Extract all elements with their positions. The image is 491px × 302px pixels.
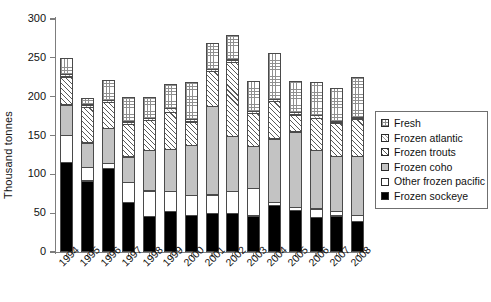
bar-segment-frozen-trouts (206, 71, 219, 107)
bar-2005[interactable] (289, 82, 302, 252)
y-tick-mark (50, 96, 55, 97)
bar-segment-frozen-coho (310, 150, 323, 209)
bar-segment-frozen-sockeye (60, 162, 73, 252)
bar-segment-fresh (351, 77, 364, 118)
bar-2003[interactable] (247, 82, 260, 252)
legend-item-frozen-trouts[interactable]: Frozen trouts (381, 145, 483, 160)
bar-segment-fresh (289, 81, 302, 113)
bar-segment-frozen-trouts (185, 122, 198, 146)
bar-segment-fresh (60, 58, 73, 75)
bar-1997[interactable] (122, 98, 135, 252)
bar-segment-fresh (185, 82, 198, 120)
bar-segment-other-frozen-pacific (164, 191, 177, 211)
bar-segment-other-frozen-pacific (122, 182, 135, 203)
y-tick-label: 150 (12, 129, 46, 141)
y-tick-mark (50, 18, 55, 19)
bar-2002[interactable] (226, 35, 239, 252)
bar-2008[interactable] (351, 77, 364, 252)
y-tick-label: 200 (12, 90, 46, 102)
y-tick-mark (50, 251, 55, 252)
bar-segment-frozen-trouts (310, 118, 323, 151)
bar-segment-fresh (247, 81, 260, 111)
bar-segment-fresh (206, 43, 219, 69)
bar-1994[interactable] (60, 59, 73, 252)
bar-segment-fresh (164, 84, 177, 110)
bar-segment-fresh (102, 80, 115, 101)
bar-1998[interactable] (143, 98, 156, 252)
fresh-swatch (381, 119, 389, 127)
bar-1995[interactable] (81, 99, 94, 252)
bar-segment-frozen-trouts (268, 101, 281, 139)
bar-segment-frozen-coho (330, 156, 343, 212)
bar-segment-frozen-trouts (289, 115, 302, 133)
bar-segment-fresh (226, 35, 239, 61)
bar-segment-frozen-coho (268, 139, 281, 203)
bar-segment-frozen-trouts (143, 120, 156, 151)
bar-segment-other-frozen-pacific (247, 188, 260, 216)
legend: FreshFrozen atlanticFrozen troutsFrozen … (375, 111, 488, 209)
bar-2006[interactable] (310, 83, 323, 252)
bar-segment-other-frozen-pacific (60, 135, 73, 163)
bar-segment-frozen-trouts (247, 113, 260, 147)
bar-segment-frozen-coho (102, 128, 115, 164)
plot-area (56, 19, 368, 252)
y-tick-label: 300 (12, 12, 46, 24)
bar-segment-fresh (268, 53, 281, 100)
bar-2000[interactable] (185, 83, 198, 252)
bar-segment-frozen-trouts (351, 119, 364, 157)
bar-segment-frozen-coho (81, 143, 94, 169)
bar-segment-frozen-coho (143, 150, 156, 191)
bar-segment-frozen-coho (226, 136, 239, 192)
bar-segment-frozen-coho (185, 145, 198, 196)
y-tick-mark (50, 135, 55, 136)
chart-figure: Thousand tonnes 050100150200250300 19941… (0, 0, 491, 302)
bar-segment-frozen-coho (206, 106, 219, 195)
legend-item-label: Frozen atlantic (394, 133, 463, 144)
bar-2001[interactable] (206, 44, 219, 252)
bar-2007[interactable] (330, 89, 343, 252)
frozen-coho-swatch (381, 163, 389, 171)
legend-item-label: Frozen sockeye (394, 191, 468, 202)
bar-segment-frozen-coho (164, 149, 177, 192)
y-tick-label: 250 (12, 51, 46, 63)
y-tick-mark (50, 213, 55, 214)
frozen-atlantic-swatch (381, 134, 389, 142)
legend-item-frozen-coho[interactable]: Frozen coho (381, 160, 483, 175)
bar-segment-frozen-sockeye (81, 181, 94, 252)
bar-segment-other-frozen-pacific (143, 191, 156, 217)
bar-segment-fresh (310, 82, 323, 116)
legend-item-fresh[interactable]: Fresh (381, 116, 483, 131)
y-tick-label: 0 (12, 245, 46, 257)
bar-segment-frozen-coho (247, 146, 260, 189)
bar-1996[interactable] (102, 81, 115, 252)
bar-segment-other-frozen-pacific (81, 167, 94, 181)
bar-segment-other-frozen-pacific (185, 195, 198, 215)
bar-segment-other-frozen-pacific (226, 191, 239, 214)
legend-item-label: Other frozen pacific (394, 176, 485, 187)
legend-item-label: Frozen trouts (394, 147, 456, 158)
frozen-sockeye-swatch (381, 192, 389, 200)
bar-segment-frozen-trouts (330, 123, 343, 156)
bar-segment-frozen-trouts (60, 77, 73, 106)
frozen-trouts-swatch (381, 148, 389, 156)
bar-segment-frozen-sockeye (102, 168, 115, 252)
bar-2004[interactable] (268, 54, 281, 252)
bar-segment-fresh (143, 97, 156, 119)
y-tick-label: 100 (12, 167, 46, 179)
bar-segment-frozen-trouts (81, 107, 94, 144)
bar-segment-frozen-trouts (226, 62, 239, 137)
bar-segment-frozen-coho (122, 157, 135, 183)
bar-segment-fresh (330, 88, 343, 122)
bar-segment-other-frozen-pacific (206, 195, 219, 214)
y-tick-label: 50 (12, 206, 46, 218)
legend-item-other-frozen-pacific[interactable]: Other frozen pacific (381, 174, 483, 189)
y-tick-mark (50, 57, 55, 58)
legend-item-label: Frozen coho (394, 162, 452, 173)
other-frozen-pacific-swatch (381, 178, 389, 186)
legend-item-frozen-sockeye[interactable]: Frozen sockeye (381, 189, 483, 204)
bar-segment-frozen-trouts (164, 112, 177, 149)
bar-1999[interactable] (164, 84, 177, 252)
legend-item-frozen-atlantic[interactable]: Frozen atlantic (381, 131, 483, 146)
bar-segment-frozen-coho (60, 105, 73, 136)
legend-item-label: Fresh (394, 118, 421, 129)
